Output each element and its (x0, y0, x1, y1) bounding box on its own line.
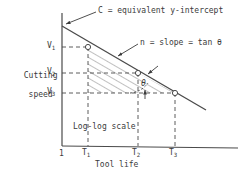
x-tick-label-t1: T1 (82, 148, 90, 158)
tick-sub: 1 (87, 152, 90, 158)
x-tick-label-t3: T3 (169, 148, 177, 158)
slope-leader (118, 44, 138, 56)
tick-sub: 1 (52, 45, 55, 51)
intercept-leader (66, 12, 96, 24)
x-tick-label-origin: 1 (59, 149, 64, 158)
x-axis-label: Tool life (95, 160, 138, 169)
data-point (172, 90, 177, 95)
hatched-region (88, 47, 175, 93)
tick-sub: 3 (174, 152, 177, 158)
tool-life-chart: C = equivalent y-intercept n = slope = t… (0, 0, 243, 177)
data-point (135, 70, 140, 75)
intercept-annotation: C = equivalent y-intercept (98, 6, 223, 15)
data-point (85, 44, 90, 49)
tick-sub: 2 (52, 71, 55, 77)
log-log-scale-note: Log-log scale (73, 122, 136, 131)
tick-sub: 2 (137, 152, 140, 158)
y-tick-label-v2: V2 (47, 67, 55, 77)
tick-sub: 3 (52, 91, 55, 97)
angle-label: θ (141, 79, 146, 88)
y-tick-label-v3: V3 (47, 87, 55, 97)
x-tick-label-t2: T2 (132, 148, 140, 158)
slope-annotation: n = slope = tan θ (140, 38, 222, 47)
y-tick-label-v1: V1 (47, 41, 55, 51)
